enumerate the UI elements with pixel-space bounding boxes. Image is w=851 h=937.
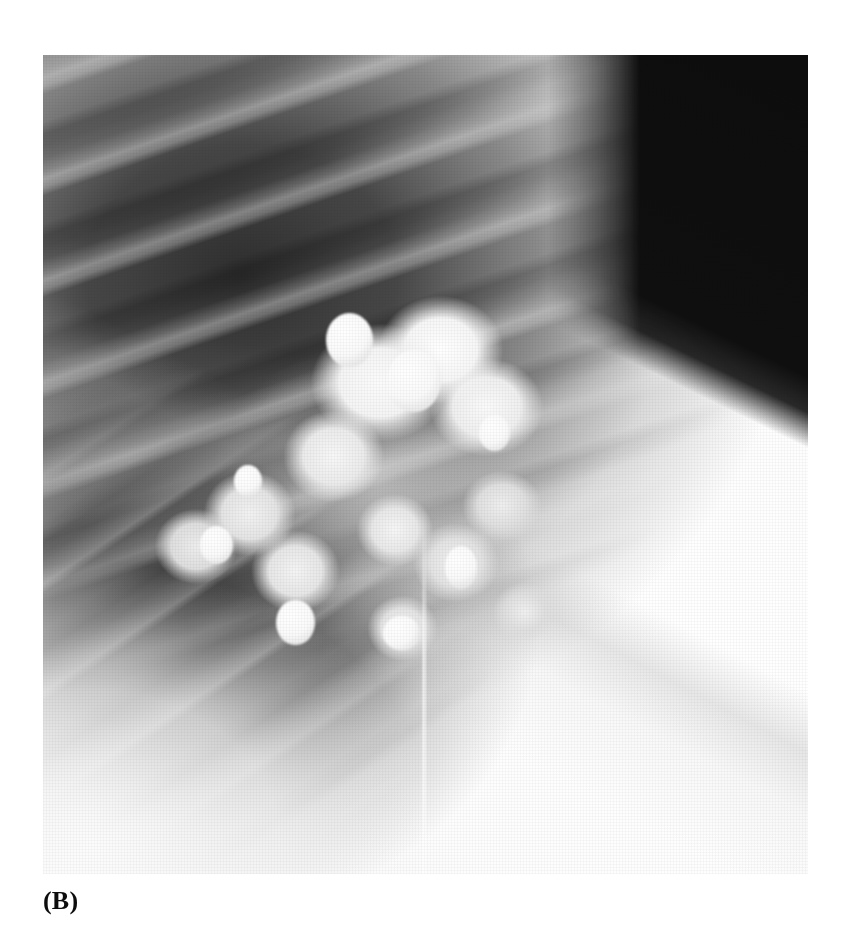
film-soften-layer (43, 55, 808, 874)
figure-caption-label: (B) (43, 886, 78, 916)
figure-panel: (B) (0, 0, 851, 937)
radiograph-canvas (43, 55, 808, 874)
chest-radiograph-image (43, 55, 808, 874)
